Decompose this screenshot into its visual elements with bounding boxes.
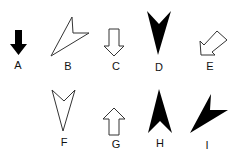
- arrow-e-icon: [200, 31, 227, 55]
- label-h: H: [156, 138, 164, 149]
- arrow-f-icon: [52, 90, 75, 131]
- label-c: C: [112, 61, 120, 72]
- label-g: G: [112, 139, 121, 150]
- arrow-d-icon: [147, 11, 171, 55]
- arrow-h-icon: [148, 89, 172, 133]
- label-e: E: [206, 61, 213, 72]
- arrow-i-icon: [190, 94, 228, 133]
- label-i: I: [205, 140, 208, 151]
- arrow-b-icon: [51, 17, 89, 56]
- label-a: A: [14, 60, 21, 71]
- arrow-g-icon: [103, 108, 125, 135]
- arrow-c-icon: [104, 29, 124, 56]
- label-d: D: [155, 62, 163, 73]
- label-f: F: [61, 137, 68, 148]
- arrow-a-icon: [10, 30, 27, 55]
- arrows-figure: [0, 0, 242, 160]
- label-b: B: [64, 61, 71, 72]
